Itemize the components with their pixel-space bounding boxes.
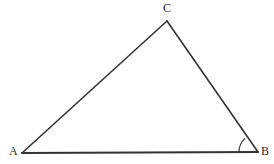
triangle-diagram-canvas [0,0,274,164]
diagram-background [0,0,274,164]
vertex-label-a: A [9,145,18,157]
geometry-figure: A B C [0,0,274,164]
vertex-label-b: B [261,145,269,157]
triangle-side-ab [22,152,258,153]
vertex-label-c: C [163,2,171,14]
